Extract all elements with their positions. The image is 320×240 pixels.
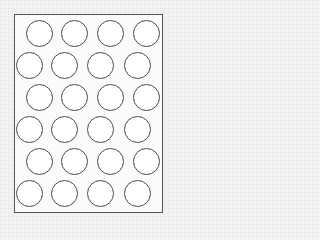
circle-label [97, 148, 124, 175]
circle-label [51, 116, 78, 143]
circle-label [51, 52, 78, 79]
circle-label [61, 148, 88, 175]
circle-label [124, 180, 151, 207]
circle-label [87, 180, 114, 207]
circle-label [87, 116, 114, 143]
circle-label [133, 20, 160, 47]
circle-label [16, 52, 43, 79]
circle-label [97, 84, 124, 111]
circle-label [87, 52, 114, 79]
circle-label [124, 116, 151, 143]
circle-label [61, 84, 88, 111]
circle-label [97, 20, 124, 47]
circle-label [26, 148, 53, 175]
circle-label [51, 180, 78, 207]
circle-label [26, 84, 53, 111]
circle-label [16, 180, 43, 207]
circle-label [124, 52, 151, 79]
circle-label [61, 20, 88, 47]
circle-label [133, 148, 160, 175]
circle-label [16, 116, 43, 143]
circle-label [26, 20, 53, 47]
circle-label [133, 84, 160, 111]
